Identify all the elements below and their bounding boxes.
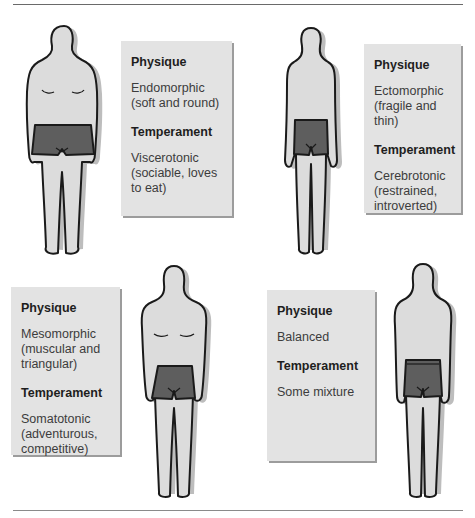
physique-value: Endomorphic (soft and round)	[131, 81, 223, 111]
physique-value: Ectomorphic (fragile and thin)	[374, 84, 452, 129]
physique-label: Physique	[277, 304, 366, 319]
bottom-rule	[13, 510, 463, 511]
temperament-value: Somatotonic (adventurous, competitive)	[21, 412, 111, 457]
physique-label: Physique	[21, 301, 111, 316]
temperament-label: Temperament	[21, 386, 111, 401]
temperament-value: Cerebrotonic (restrained, introverted)	[374, 169, 452, 214]
endomorph-body-figure	[14, 22, 114, 260]
mesomorph-body-figure	[136, 260, 216, 502]
ectomorph-body-figure	[276, 22, 346, 260]
balanced-body-figure	[388, 258, 460, 502]
physique-label: Physique	[374, 58, 452, 73]
temperament-value: Some mixture	[277, 385, 366, 400]
temperament-value: Viscerotonic (sociable, loves to eat)	[131, 151, 223, 196]
temperament-label: Temperament	[374, 143, 452, 158]
balanced-info-box: Physique Balanced Temperament Some mixtu…	[267, 290, 375, 461]
temperament-label: Temperament	[277, 359, 366, 374]
temperament-label: Temperament	[131, 125, 223, 140]
endomorph-info-box: Physique Endomorphic (soft and round) Te…	[121, 41, 232, 216]
mesomorph-info-box: Physique Mesomorphic (muscular and trian…	[11, 287, 120, 455]
physique-value: Balanced	[277, 330, 366, 345]
physique-value: Mesomorphic (muscular and triangular)	[21, 327, 111, 372]
ectomorph-info-box: Physique Ectomorphic (fragile and thin) …	[364, 44, 461, 213]
physique-label: Physique	[131, 55, 223, 70]
top-rule	[13, 4, 463, 5]
